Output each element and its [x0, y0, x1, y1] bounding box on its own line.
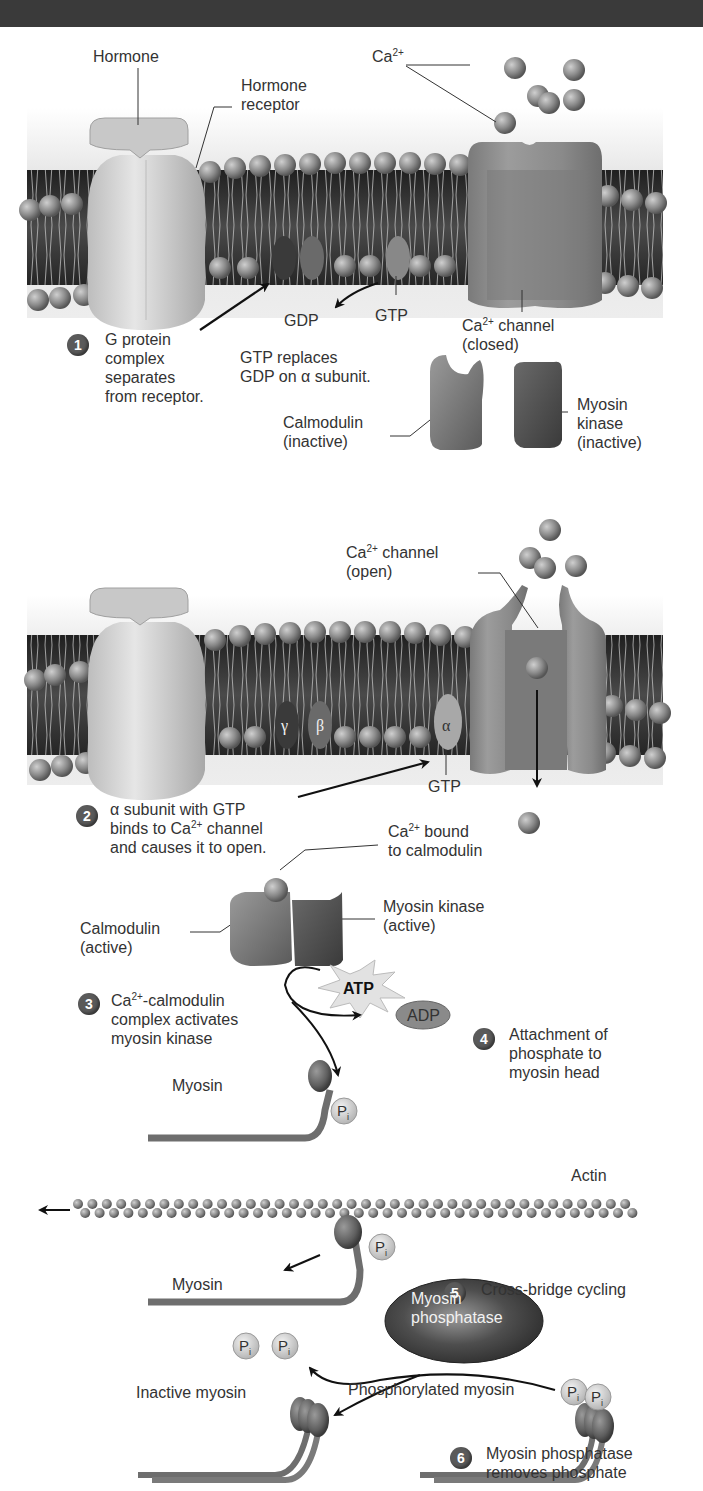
atp-label: ATP: [343, 979, 374, 998]
step-2-badge: 2: [76, 805, 98, 827]
hormone-receptor: [88, 622, 205, 800]
g-protein-gamma: [272, 236, 296, 280]
gdp-label: GDP: [284, 311, 319, 330]
calmodulin-inactive-label: Calmodulin (inactive): [283, 413, 363, 451]
inactive-myosin-label: Inactive myosin: [136, 1383, 246, 1402]
panel2-membrane: [24, 585, 671, 800]
beta-symbol: β: [316, 716, 324, 735]
gamma-symbol: γ: [281, 716, 288, 735]
ca-channel-closed-label: Ca2+ channel(closed): [462, 316, 554, 354]
calmodulin-active-label: Calmodulin (active): [80, 919, 160, 957]
gtp-label: GTP: [375, 306, 408, 325]
step-4-text: Attachment of phosphate to myosin head: [509, 1025, 608, 1082]
myosin-kinase-inactive: [514, 362, 562, 448]
ca-ion-bound: [264, 878, 288, 902]
step-3-text: Ca2+-calmodulincomplex activates myosin …: [111, 991, 238, 1048]
adp-label: ADP: [407, 1006, 440, 1025]
step-2-text: α subunit with GTPbinds to Ca2+ channela…: [110, 800, 267, 857]
hormone-label: Hormone: [93, 47, 159, 66]
phosphorylated-myosin-label: Phosphorylated myosin: [348, 1380, 514, 1399]
smooth-muscle-contraction-diagram: [0, 0, 703, 1491]
ca-bound-label: Ca2+ boundto calmodulin: [388, 822, 482, 860]
hormone-receptor-label: Hormone receptor: [241, 76, 307, 114]
myosin-head: [308, 1060, 332, 1092]
g-protein-alpha: [386, 236, 410, 280]
myosin-filament: [148, 1090, 330, 1138]
myosin-label: Myosin: [172, 1076, 223, 1095]
step-1-badge: 1: [67, 334, 89, 356]
step-6-text: Myosin phosphatase removes phosphate: [486, 1444, 633, 1482]
header-bar: [0, 0, 703, 27]
step-6-badge: 6: [450, 1447, 472, 1469]
myosin-head-bound: [334, 1215, 362, 1249]
myosin-label-panel4: Myosin: [172, 1275, 223, 1294]
panel1-membrane: [19, 108, 667, 330]
actin-label: Actin: [571, 1166, 607, 1185]
myosin-kinase-active-label: Myosin kinase (active): [383, 897, 484, 935]
calmodulin-inactive: [430, 355, 484, 450]
step-3-badge: 3: [78, 993, 100, 1015]
ca-channel-open-label: Ca2+ channel(open): [346, 543, 438, 581]
gtp-replaces-text: GTP replaces GDP on α subunit.: [240, 348, 371, 386]
step-5-text: Cross-bridge cycling: [481, 1280, 626, 1299]
step-1-text: G protein complex separates from recepto…: [105, 330, 204, 406]
inactive-myosin: [138, 1397, 329, 1480]
myosin-phosphatase-label: Myosin phosphatase: [411, 1289, 503, 1327]
gtp-label-panel2: GTP: [428, 777, 461, 796]
pi-free-label-1: Pi: [239, 1336, 251, 1362]
step-4-badge: 4: [473, 1028, 495, 1050]
myosin-kinase-inactive-label: Myosin kinase (inactive): [577, 395, 642, 452]
pi-free-label-2: Pi: [278, 1336, 290, 1362]
myosin-kinase-active: [292, 892, 343, 966]
g-protein-beta: [300, 236, 324, 280]
pi-bound-label-1: Pi: [567, 1382, 579, 1408]
pi-label-panel4: Pi: [375, 1237, 387, 1263]
calmodulin-active: [230, 892, 292, 966]
pi-label: Pi: [337, 1101, 349, 1127]
pi-bound-label-2: Pi: [591, 1387, 603, 1413]
ca-ion-label: Ca2+: [372, 47, 404, 66]
alpha-symbol: α: [442, 716, 450, 735]
